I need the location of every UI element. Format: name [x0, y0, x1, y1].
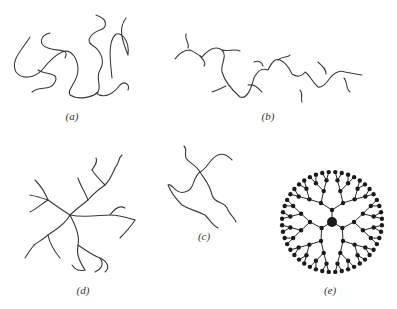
panel-c-star-polymer: [168, 146, 236, 228]
polymer-architecture-figure: [0, 0, 397, 309]
panel-a-linear-chains: [14, 15, 128, 98]
panel-e-dendrimer: [280, 170, 384, 274]
dendrimer-core: [327, 217, 337, 227]
label-c: (c): [198, 230, 210, 242]
label-d: (d): [77, 284, 90, 296]
panel-d-hyperbranched: [25, 155, 135, 272]
label-a: (a): [66, 110, 79, 122]
label-e: (e): [324, 284, 336, 296]
panel-b-branched-chain: [175, 34, 362, 102]
label-b: (b): [262, 110, 275, 122]
